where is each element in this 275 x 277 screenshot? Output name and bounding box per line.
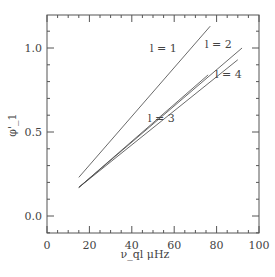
- series-line: [79, 26, 210, 177]
- plot: 0204060801000.00.51.0ν_ql μHzφ'_1l = 1l …: [0, 0, 275, 277]
- x-axis-label: ν_ql μHz: [121, 248, 170, 261]
- x-tick-label: 0: [44, 239, 51, 252]
- y-tick-label: 0.5: [25, 126, 43, 139]
- y-tick-label: 1.0: [25, 42, 43, 55]
- chart: 0204060801000.00.51.0ν_ql μHzφ'_1l = 1l …: [0, 0, 275, 277]
- series-line: [79, 60, 238, 188]
- y-tick-label: 0.0: [25, 210, 43, 223]
- x-tick-label: 80: [210, 239, 224, 252]
- series-label: l = 2: [205, 38, 232, 51]
- series-label: l = 4: [215, 68, 242, 81]
- x-tick-label: 20: [82, 239, 96, 252]
- x-tick-label: 100: [249, 239, 270, 252]
- series-line: [79, 75, 208, 188]
- series-label: l = 1: [150, 42, 177, 55]
- y-axis-label: φ'_1: [6, 113, 19, 136]
